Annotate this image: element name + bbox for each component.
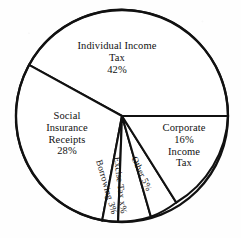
slice-label-value: 16%	[146, 134, 222, 146]
slice-label-line: Social	[28, 110, 106, 122]
slice-label-line: Insurance	[28, 122, 106, 134]
slice-label-line: Tax	[146, 157, 222, 169]
slice-label-line: Corporate	[146, 122, 222, 134]
slice-label-individual-income-tax: Individual Income Tax 42%	[58, 40, 176, 75]
slice-label-social-insurance-receipts: Social Insurance Receipts 28%	[28, 110, 106, 157]
slice-label-line: Receipts	[28, 134, 106, 146]
slice-label-line: Individual Income	[58, 40, 176, 52]
slice-label-line: Tax	[58, 52, 176, 64]
slice-label-value: 42%	[58, 64, 176, 76]
slice-label-line: Income	[146, 146, 222, 158]
pie-chart: Individual Income Tax 42% Social Insuran…	[0, 0, 241, 238]
slice-label-corporate-income-tax: Corporate 16% Income Tax	[146, 122, 222, 169]
slice-label-value: 28%	[28, 145, 106, 157]
